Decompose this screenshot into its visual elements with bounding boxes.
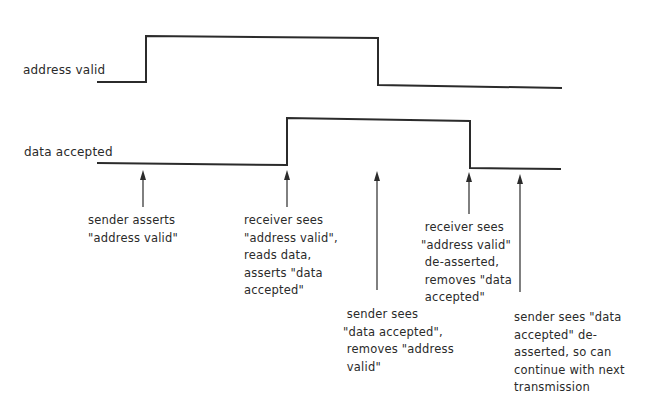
arrow-sender-sees-data-accepted [374,171,380,290]
arrow-head-icon [374,171,380,181]
annotation-sender-sees-data-accepted-deasserted: sender sees "data accepted" de- asserted… [514,309,625,397]
arrow-receiver-sees-address-valid-deasserted [466,172,472,214]
annotation-sender-sees-data-accepted: sender sees "data accepted", removes "ad… [343,306,454,376]
signal-label-address-valid: address valid [23,63,105,77]
arrow-head-icon [140,170,146,180]
annotation-receiver-sees-address-valid-deasserted: receiver sees "address valid" de-asserte… [421,219,512,307]
arrow-receiver-sees-address-valid [284,170,290,207]
arrow-sender-asserts-address-valid [140,170,146,207]
signal-label-data-accepted: data accepted [24,145,113,159]
annotation-sender-asserts-address-valid: sender asserts "address valid" [88,212,178,247]
arrow-head-icon [466,172,472,182]
waveform-data-accepted [97,118,561,169]
waveforms [97,36,562,169]
arrow-head-icon [284,170,290,180]
arrow-head-icon [517,174,523,184]
waveform-address-valid [97,36,562,88]
arrow-sender-sees-data-accepted-deasserted [517,174,523,292]
annotation-receiver-sees-address-valid: receiver sees "address valid", reads dat… [244,212,338,300]
